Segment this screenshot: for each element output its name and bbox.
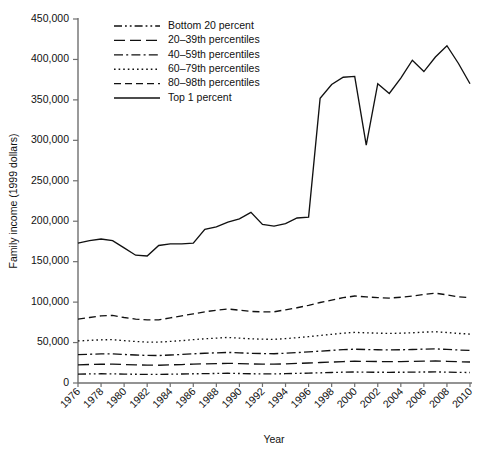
x-axis-tick-label: 2010 [449, 385, 474, 410]
y-axis-tick-label: 150,000 [31, 254, 69, 266]
chart-canvas: 050,000100,000150,000200,000250,000300,0… [0, 0, 488, 450]
legend-label-0: Bottom 20 percent [168, 19, 254, 31]
x-axis-tick-label: 2006 [403, 385, 428, 410]
series-line-4 [78, 293, 470, 320]
y-axis-tick-label: 300,000 [31, 133, 69, 145]
series-line-0 [78, 372, 470, 375]
series-line-2 [78, 349, 470, 356]
y-axis-tick-label: 400,000 [31, 52, 69, 64]
legend-label-2: 40–59th percentiles [168, 48, 260, 60]
x-axis-tick-label: 2000 [334, 385, 359, 410]
legend-label-4: 80–98th percentiles [168, 76, 260, 88]
income-percentiles-line-chart: 050,000100,000150,000200,000250,000300,0… [0, 0, 488, 450]
y-axis-tick-label: 350,000 [31, 93, 69, 105]
x-axis-tick-label: 1990 [219, 385, 244, 410]
x-axis-tick-label: 1988 [196, 385, 221, 410]
x-axis-tick-label: 1998 [311, 385, 336, 410]
x-axis-tick-label: 1996 [288, 385, 313, 410]
x-axis-tick-label: 1992 [242, 385, 267, 410]
x-axis-title: Year [263, 433, 285, 445]
series-line-1 [78, 361, 470, 365]
y-axis-tick-label: 200,000 [31, 214, 69, 226]
x-axis-tick-label: 1982 [127, 385, 152, 410]
y-axis-title: Family income (1999 dollars) [7, 134, 19, 269]
series-line-5 [78, 46, 470, 256]
legend-label-5: Top 1 percent [168, 91, 232, 103]
x-axis-tick-label: 1986 [173, 385, 198, 410]
y-axis-tick-label: 450,000 [31, 12, 69, 24]
x-axis-tick-label: 1980 [104, 385, 129, 410]
y-axis-tick-label: 0 [63, 376, 69, 388]
y-axis-tick-label: 50,000 [37, 335, 69, 347]
x-axis-tick-label: 1978 [80, 385, 105, 410]
y-axis-tick-label: 100,000 [31, 295, 69, 307]
x-axis-tick-label: 2004 [380, 385, 405, 410]
legend-label-3: 60–79th percentiles [168, 62, 260, 74]
x-axis-tick-label: 1976 [57, 385, 82, 410]
x-axis-tick-label: 2002 [357, 385, 382, 410]
y-axis-tick-label: 250,000 [31, 174, 69, 186]
x-axis-tick-label: 2008 [426, 385, 451, 410]
x-axis-tick-label: 1994 [265, 385, 290, 410]
x-axis-tick-label: 1984 [150, 385, 175, 410]
legend-label-1: 20–39th percentiles [168, 33, 260, 45]
series-line-3 [78, 332, 470, 342]
